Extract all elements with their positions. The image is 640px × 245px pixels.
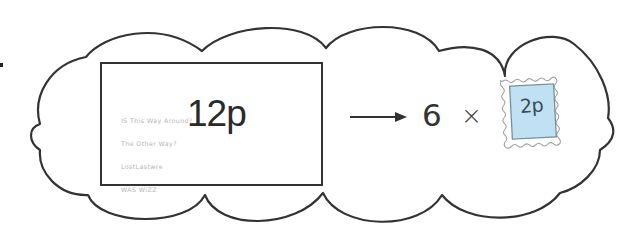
address-line: IS This Way Around? [121, 117, 193, 125]
address-line: The Other Way? [121, 140, 193, 148]
envelope: IS This Way Around? The Other Way? LostL… [100, 62, 323, 186]
envelope-postage-value: 12p [187, 92, 246, 136]
times-operator: × [461, 102, 482, 130]
multiplier-value: 6 [422, 97, 442, 133]
right-arrow-icon [349, 110, 409, 124]
diagram-stage: IS This Way Around? The Other Way? LostL… [0, 0, 640, 245]
address-line: WAS WiZZ [121, 186, 193, 194]
postage-stamp: 2p [500, 74, 566, 150]
address-line: LostLastwre [121, 163, 193, 171]
envelope-address: IS This Way Around? The Other Way? LostL… [121, 102, 193, 208]
stamp-value: 2p [519, 93, 550, 117]
